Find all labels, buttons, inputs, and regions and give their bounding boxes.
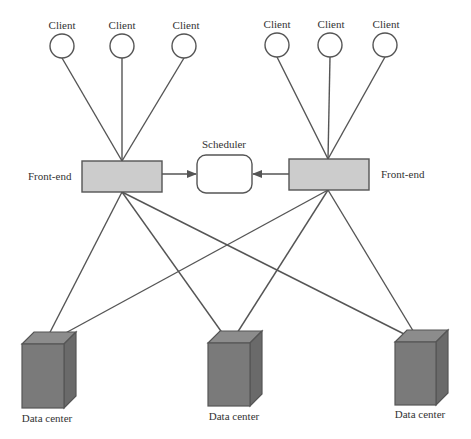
edge-client-5-frontend-right: [328, 57, 330, 159]
datacenter-edges: [45, 190, 418, 342]
frontend-left-label: Front-end: [28, 170, 72, 182]
client-label: Client: [264, 18, 291, 30]
datacenter-icon: [22, 344, 64, 408]
client-node: [265, 33, 289, 57]
client-node: [50, 34, 74, 58]
datacenter-label: Data center: [209, 410, 260, 422]
architecture-diagram: Client Client Client Client Client Clien…: [0, 0, 471, 439]
client-node: [110, 34, 134, 58]
clients: [50, 33, 397, 58]
client-label: Client: [173, 19, 200, 31]
edge-frontend-left-dc-3: [122, 192, 414, 339]
datacenter-1: [22, 332, 76, 408]
frontend-right: [289, 159, 369, 190]
datacenter-3: [395, 330, 448, 405]
client-node: [373, 33, 397, 57]
edge-frontend-right-dc-3: [328, 190, 418, 339]
datacenter-label: Data center: [22, 412, 73, 424]
client-label: Client: [49, 19, 76, 31]
frontend-right-label: Front-end: [381, 168, 425, 180]
edge-client-4-frontend-right: [277, 57, 328, 159]
client-label: Client: [109, 19, 136, 31]
datacenter-icon: [208, 343, 250, 406]
datacenter-2: [208, 331, 262, 406]
client-label: Client: [373, 18, 400, 30]
edge-client-1-frontend-left: [62, 58, 122, 161]
datacenter-label: Data center: [395, 408, 446, 420]
client-labels: Client Client Client Client Client Clien…: [49, 18, 400, 31]
client-node: [318, 33, 342, 57]
datacenter-side-face: [436, 330, 448, 405]
edge-client-3-frontend-left: [122, 58, 184, 161]
edge-frontend-right-dc-2: [232, 190, 328, 341]
datacenter-side-face: [64, 332, 76, 408]
client-label: Client: [318, 18, 345, 30]
datacenter-side-face: [250, 331, 262, 406]
datacenter-icon: [395, 342, 436, 405]
scheduler-node: [197, 155, 252, 193]
frontend-left: [82, 161, 162, 192]
scheduler-label: Scheduler: [202, 138, 246, 150]
edge-client-6-frontend-right: [328, 57, 385, 159]
edge-frontend-right-dc-1: [49, 190, 328, 342]
client-node: [172, 34, 196, 58]
edge-frontend-left-dc-1: [45, 192, 122, 342]
edge-frontend-left-dc-2: [122, 192, 228, 341]
